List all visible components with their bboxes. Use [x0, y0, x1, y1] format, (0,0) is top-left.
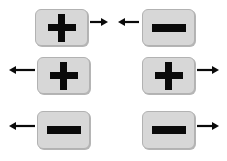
- magnet-card-row3-left[interactable]: [37, 111, 90, 149]
- magnet-card-row1-right[interactable]: [142, 9, 195, 46]
- magnet-card-row2-right[interactable]: [142, 57, 195, 94]
- plus-icon: [155, 62, 183, 90]
- arrow-right-icon-row2-right: [197, 65, 219, 75]
- plus-icon: [50, 62, 78, 90]
- plus-vertical-bar: [58, 14, 65, 42]
- arrow-right-icon-row3-right: [197, 121, 219, 131]
- arrow-left-icon-row1-right: [118, 17, 139, 27]
- plus-icon: [48, 14, 76, 42]
- magnet-card-row3-right[interactable]: [142, 111, 195, 149]
- minus-horizontal-bar: [47, 126, 81, 134]
- minus-icon: [152, 124, 186, 136]
- magnet-card-row1-left[interactable]: [35, 9, 88, 46]
- diagram-canvas: [0, 0, 227, 161]
- magnet-card-row2-left[interactable]: [37, 57, 90, 94]
- arrow-left-icon-row3-left: [9, 121, 35, 131]
- minus-icon: [47, 124, 81, 136]
- minus-horizontal-bar: [152, 24, 186, 32]
- minus-icon: [152, 22, 186, 34]
- arrow-left-icon-row2-left: [9, 65, 35, 75]
- arrow-right-icon-row1-left: [90, 17, 108, 27]
- minus-horizontal-bar: [152, 126, 186, 134]
- plus-vertical-bar: [165, 62, 172, 90]
- plus-vertical-bar: [60, 62, 67, 90]
